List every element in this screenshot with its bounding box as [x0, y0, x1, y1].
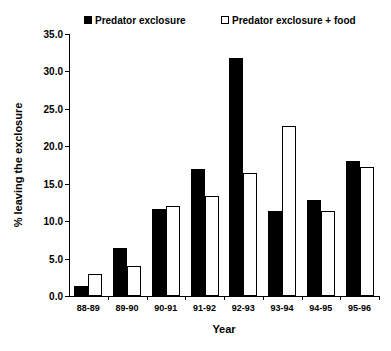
- bar: [191, 169, 205, 296]
- bar: [127, 266, 141, 296]
- y-axis-tick: [65, 221, 69, 222]
- y-axis-tick-label: 10.0: [44, 216, 63, 227]
- x-axis-tick: [263, 296, 264, 300]
- bar: [205, 196, 219, 296]
- x-axis-tick: [379, 296, 380, 300]
- y-axis-tick: [65, 34, 69, 35]
- y-axis-title-text: % leaving the exclosure: [12, 103, 24, 228]
- legend-item-label: Predator exclosure + food: [232, 15, 356, 26]
- bar: [152, 209, 166, 296]
- bar: [307, 200, 321, 296]
- x-axis-tick-label: 94-95: [309, 303, 332, 313]
- bar-chart: Predator exclosure Predator exclosure + …: [0, 0, 391, 351]
- x-axis-tick: [302, 296, 303, 300]
- y-axis-tick: [65, 146, 69, 147]
- x-axis-tick: [147, 296, 148, 300]
- x-axis-title: Year: [69, 323, 379, 335]
- y-axis-title: % leaving the exclosure: [8, 0, 28, 330]
- x-axis-tick-label: 92-93: [232, 303, 255, 313]
- x-axis-tick: [224, 296, 225, 300]
- hollow-square-marker-icon: [221, 16, 229, 24]
- bar: [166, 206, 180, 296]
- bar: [243, 173, 257, 296]
- y-axis-line: [69, 34, 70, 296]
- chart-legend: Predator exclosure Predator exclosure + …: [84, 11, 384, 29]
- filled-square-marker-icon: [84, 16, 92, 24]
- legend-item-predator-exclosure: Predator exclosure: [84, 11, 186, 29]
- x-axis-tick: [108, 296, 109, 300]
- x-axis-tick-label: 88-89: [77, 303, 100, 313]
- x-axis-tick-label: 90-91: [154, 303, 177, 313]
- y-axis-tick: [65, 296, 69, 297]
- x-axis-tick-label: 93-94: [271, 303, 294, 313]
- y-axis-tick-label: 30.0: [44, 66, 63, 77]
- bar: [113, 248, 127, 296]
- bar: [321, 211, 335, 296]
- bar: [360, 167, 374, 297]
- y-axis-tick-label: 15.0: [44, 178, 63, 189]
- y-axis-tick-label: 20.0: [44, 141, 63, 152]
- x-axis-tick-label: 89-90: [116, 303, 139, 313]
- bar: [282, 126, 296, 296]
- y-axis-tick: [65, 184, 69, 185]
- y-axis-tick-label: 5.0: [49, 253, 63, 264]
- y-axis-tick-label: 35.0: [44, 29, 63, 40]
- plot-area: 0.05.010.015.020.025.030.035.0 88-8989-9…: [69, 34, 379, 296]
- bar: [229, 58, 243, 296]
- y-axis-tick: [65, 259, 69, 260]
- bar: [268, 211, 282, 296]
- y-axis-tick-label: 25.0: [44, 103, 63, 114]
- y-axis-tick: [65, 71, 69, 72]
- bar: [74, 286, 88, 296]
- y-axis-tick-label: 0.0: [49, 291, 63, 302]
- legend-item-predator-exclosure-plus-food: Predator exclosure + food: [221, 11, 356, 29]
- x-axis-tick: [185, 296, 186, 300]
- bar: [88, 274, 102, 296]
- bar: [346, 161, 360, 296]
- x-axis-tick-label: 95-96: [348, 303, 371, 313]
- x-axis-tick: [340, 296, 341, 300]
- y-axis-tick: [65, 109, 69, 110]
- x-axis-tick-label: 91-92: [193, 303, 216, 313]
- legend-item-label: Predator exclosure: [95, 15, 186, 26]
